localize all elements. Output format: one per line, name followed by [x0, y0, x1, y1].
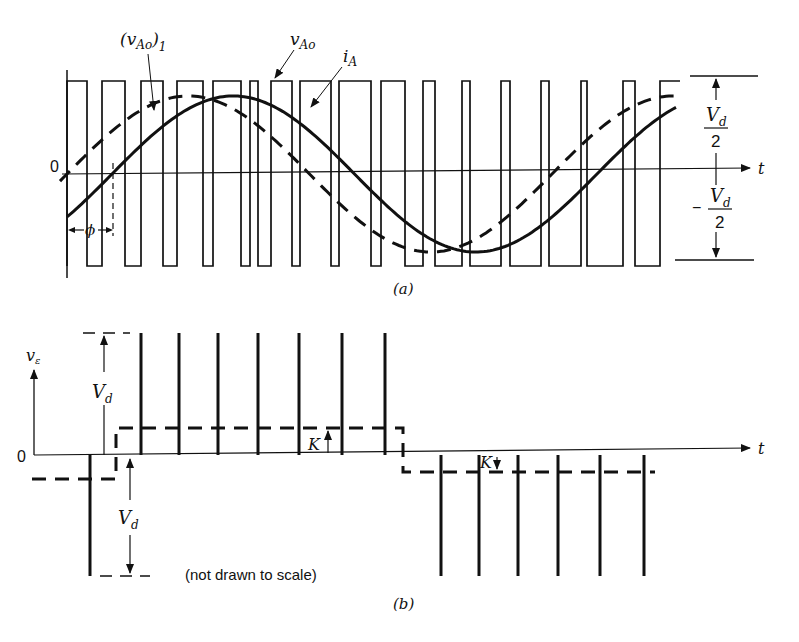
vd-upper-label: Vd [92, 381, 113, 406]
panel-b-origin-label: 0 [17, 448, 26, 465]
svg-text:Vd: Vd [706, 104, 727, 129]
phase-arrow-left-head [68, 227, 75, 233]
vd-lower-label: Vd [118, 507, 139, 532]
svg-text:vε: vε [26, 346, 40, 366]
panel-a-caption: (a) [393, 280, 414, 298]
svg-text:2: 2 [715, 213, 724, 232]
output-voltage-label-leader [275, 50, 294, 78]
fundamental-label: (vAo)1 [120, 29, 166, 54]
svg-text:Vd: Vd [92, 381, 113, 406]
not-to-scale-note: (not drawn to scale) [185, 566, 317, 583]
panel-b-time-label: t [758, 439, 765, 458]
pos-level-label: Vd 2 [704, 104, 728, 151]
svg-text:(vAo)1: (vAo)1 [120, 29, 166, 54]
svg-text:Vd: Vd [710, 185, 731, 210]
svg-text:Vd: Vd [118, 507, 139, 532]
phase-arrow-right-head [106, 227, 113, 233]
k-lower-label: K [479, 453, 493, 472]
svg-text:−: − [692, 199, 701, 216]
panel-b-y-label: vε [26, 346, 40, 366]
panel-b: vε t 0 Vd Vd K K (not drawn to scale) (b… [17, 333, 765, 613]
current-label-leader [311, 67, 342, 107]
panel-a-origin-label: 0 [50, 158, 59, 175]
current-label: iA [343, 46, 357, 69]
svg-text:2: 2 [711, 132, 720, 151]
panel-a: t 0 ϕ (vAo)1 vAo iA [50, 29, 765, 298]
panel-b-caption: (b) [393, 595, 414, 613]
output-voltage-label: vAo [290, 29, 316, 52]
panel-a-time-axis [62, 168, 750, 174]
svg-text:vAo: vAo [290, 29, 316, 52]
neg-level-label: − Vd 2 [692, 185, 732, 232]
figure-canvas: t 0 ϕ (vAo)1 vAo iA [0, 0, 799, 642]
fundamental-label-leader [148, 54, 154, 110]
svg-text:iA: iA [343, 46, 357, 69]
error-voltage-spikes [90, 333, 644, 576]
phase-label: ϕ [85, 221, 95, 239]
panel-a-time-label: t [758, 159, 765, 178]
k-upper-label: K [307, 435, 321, 454]
